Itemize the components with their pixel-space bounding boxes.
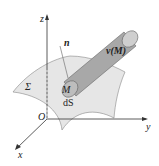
y-label: y: [146, 122, 150, 132]
z-label: z: [40, 14, 44, 24]
normal-label: n: [64, 38, 70, 48]
vector-label: v(M): [106, 46, 126, 56]
area-element-label: dS: [63, 98, 74, 108]
z-arrow-icon: [45, 14, 49, 20]
origin-label: O: [38, 112, 45, 122]
x-label: x: [18, 150, 22, 160]
point-label: M: [62, 85, 70, 95]
x-axis: [17, 119, 47, 148]
flux-diagram: [0, 0, 159, 166]
surface-label: Σ: [25, 82, 31, 92]
